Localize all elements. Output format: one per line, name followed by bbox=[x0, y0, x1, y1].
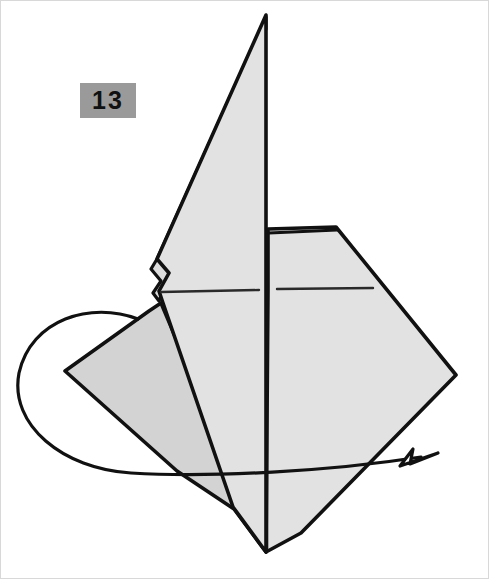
origami-figure bbox=[1, 1, 489, 579]
right-horizontal-crease bbox=[277, 288, 373, 289]
diagram-page: 13 bbox=[0, 0, 489, 579]
right-panel-shape bbox=[266, 227, 456, 552]
step-number-badge: 13 bbox=[80, 83, 136, 118]
step-number-label: 13 bbox=[92, 88, 124, 113]
